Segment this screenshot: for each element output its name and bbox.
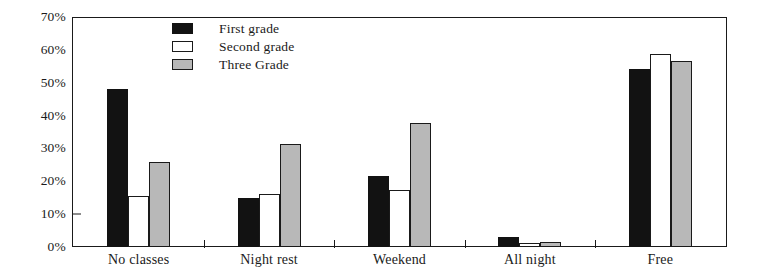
x-axis-tick-label: Night rest [240, 252, 298, 268]
bar [368, 176, 389, 246]
bar [650, 54, 671, 246]
bar [389, 190, 410, 247]
y-axis-tick-label: 60% [41, 42, 66, 58]
legend-item-label: Second grade [219, 39, 295, 55]
bar [410, 123, 431, 247]
x-axis: No classesNight restWeekendAll nightFree [74, 252, 726, 276]
x-axis-tick-mark [465, 240, 466, 248]
bar-chart: 70%60%50%40%30%20%10%0% No classesNight … [0, 0, 761, 280]
x-axis-tick-mark [595, 240, 596, 248]
y-axis-tick-label: 10% [41, 206, 66, 222]
y-axis-tick-label: 40% [41, 108, 66, 124]
legend-item: Second grade [172, 38, 372, 55]
legend: First gradeSecond gradeThree Grade [172, 20, 372, 74]
bar [107, 89, 128, 247]
x-axis-tick-marks [74, 240, 726, 248]
bar [280, 144, 301, 247]
y-axis-tick-label: 20% [41, 173, 66, 189]
bar-group [107, 19, 170, 247]
bar [128, 196, 149, 246]
y-axis-tick-label: 70% [41, 9, 66, 25]
bar-group [629, 19, 692, 247]
x-axis-tick-mark [204, 240, 205, 248]
y-axis: 70%60%50%40%30%20%10%0% [0, 17, 66, 247]
bar [629, 69, 650, 247]
y-axis-tick-label: 50% [41, 75, 66, 91]
legend-swatch-icon [172, 23, 193, 34]
legend-item: First grade [172, 20, 372, 37]
legend-item-label: Three Grade [219, 57, 289, 73]
bar [671, 61, 692, 247]
bar-group [498, 19, 561, 247]
y-axis-tick-label: 0% [48, 239, 66, 255]
legend-item-label: First grade [219, 21, 279, 37]
y-axis-tick-label: 30% [41, 140, 66, 156]
x-axis-tick-label: Free [647, 252, 673, 268]
bar-group [368, 19, 431, 247]
x-axis-tick-mark [334, 240, 335, 248]
x-axis-tick-label: No classes [108, 252, 170, 268]
x-axis-tick-label: All night [504, 252, 556, 268]
legend-swatch-icon [172, 41, 193, 52]
x-axis-tick-label: Weekend [373, 252, 426, 268]
bar [259, 194, 280, 246]
bar [149, 162, 170, 247]
legend-item: Three Grade [172, 56, 372, 73]
legend-swatch-icon [172, 59, 193, 70]
